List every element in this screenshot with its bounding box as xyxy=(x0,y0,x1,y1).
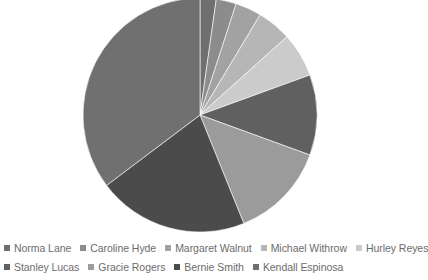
legend-item-label: Caroline Hyde xyxy=(90,242,156,254)
legend-item[interactable]: Michael Withrow xyxy=(261,238,347,257)
legend-item-label: Kendall Espinosa xyxy=(263,261,343,273)
legend-item-label: Hurley Reyes xyxy=(366,242,428,254)
legend-swatch-icon xyxy=(4,264,10,270)
pie-plot-area xyxy=(0,0,393,236)
legend-swatch-icon xyxy=(4,245,10,251)
legend-swatch-icon xyxy=(88,264,94,270)
legend-item[interactable]: Stanley Lucas xyxy=(4,257,79,276)
legend-swatch-icon xyxy=(356,245,362,251)
legend-swatch-icon xyxy=(165,245,171,251)
legend-item[interactable]: Hurley Reyes xyxy=(356,238,428,257)
legend-row: Stanley LucasGracie RogersBernie SmithKe… xyxy=(4,257,389,276)
legend-item-label: Michael Withrow xyxy=(271,242,347,254)
legend-item-label: Gracie Rogers xyxy=(98,261,165,273)
legend-swatch-icon xyxy=(80,245,86,251)
pie-svg xyxy=(0,0,393,236)
legend-item[interactable]: Gracie Rogers xyxy=(88,257,165,276)
legend-swatch-icon xyxy=(261,245,267,251)
legend-item[interactable]: Norma Lane xyxy=(4,238,71,257)
chart-legend: Norma LaneCaroline HydeMargaret WalnutMi… xyxy=(0,238,393,280)
legend-row: Norma LaneCaroline HydeMargaret WalnutMi… xyxy=(4,238,389,257)
legend-item[interactable]: Margaret Walnut xyxy=(165,238,251,257)
legend-swatch-icon xyxy=(253,264,259,270)
legend-item[interactable]: Caroline Hyde xyxy=(80,238,156,257)
legend-item-label: Norma Lane xyxy=(14,242,71,254)
legend-item[interactable]: Kendall Espinosa xyxy=(253,257,343,276)
legend-swatch-icon xyxy=(174,264,180,270)
legend-item-label: Stanley Lucas xyxy=(14,261,79,273)
legend-item[interactable]: Bernie Smith xyxy=(174,257,244,276)
legend-item-label: Margaret Walnut xyxy=(175,242,251,254)
legend-item-label: Bernie Smith xyxy=(184,261,244,273)
